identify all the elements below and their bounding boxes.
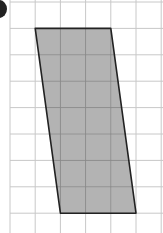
- grid-figure: [0, 0, 163, 233]
